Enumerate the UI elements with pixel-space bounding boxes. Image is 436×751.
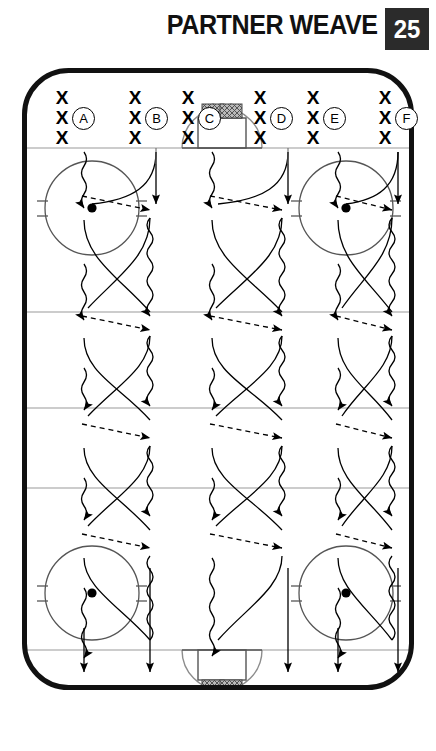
- x-stack-c: X X X: [178, 88, 198, 148]
- x-mark: X: [379, 108, 392, 128]
- page-header: PARTNER WEAVE 25: [0, 0, 436, 56]
- x-mark: X: [379, 128, 392, 148]
- group-label-a: A: [72, 107, 95, 130]
- x-mark: X: [56, 108, 69, 128]
- player-group-c: X X X C: [178, 88, 248, 150]
- x-stack-b: X X X: [125, 88, 145, 148]
- x-mark: X: [182, 88, 195, 108]
- x-mark: X: [379, 88, 392, 108]
- group-label-b: B: [145, 107, 168, 130]
- x-mark: X: [254, 128, 267, 148]
- group-label-c: C: [198, 107, 221, 130]
- x-mark: X: [129, 108, 142, 128]
- group-label-f: F: [395, 107, 418, 130]
- x-stack-a: X X X: [52, 88, 72, 148]
- x-mark: X: [254, 88, 267, 108]
- x-mark: X: [254, 108, 267, 128]
- x-mark: X: [56, 128, 69, 148]
- x-stack-e: X X X: [303, 88, 323, 148]
- player-group-f: X X X F: [375, 88, 436, 150]
- player-group-e: X X X E: [303, 88, 373, 150]
- x-mark: X: [182, 128, 195, 148]
- x-mark: X: [182, 108, 195, 128]
- court-diagram: X X X A X X X B X X X C X X X D X X: [22, 68, 414, 690]
- x-mark: X: [129, 128, 142, 148]
- x-mark: X: [307, 88, 320, 108]
- x-mark: X: [307, 128, 320, 148]
- page-number: 25: [387, 8, 427, 50]
- x-mark: X: [56, 88, 69, 108]
- x-mark: X: [129, 88, 142, 108]
- group-label-d: D: [270, 107, 293, 130]
- x-stack-f: X X X: [375, 88, 395, 148]
- x-mark: X: [307, 108, 320, 128]
- page-title: PARTNER WEAVE: [167, 10, 378, 41]
- court-svg: [22, 68, 414, 690]
- group-label-e: E: [323, 107, 346, 130]
- x-stack-d: X X X: [250, 88, 270, 148]
- player-group-a: X X X A: [52, 88, 122, 150]
